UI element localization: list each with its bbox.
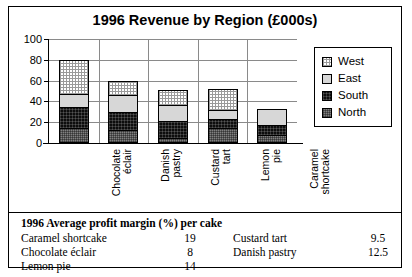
table-row: Caramel shortcake19Custard tart9.5 — [21, 231, 393, 245]
legend-label-west: West — [338, 56, 364, 68]
bar-segment-south[interactable] — [158, 121, 188, 139]
legend-label-east: East — [338, 73, 361, 85]
bar-segment-west[interactable] — [108, 81, 138, 97]
bar-segment-south[interactable] — [59, 107, 89, 130]
margin-value-right: 12.5 — [363, 245, 393, 259]
margin-name-right — [233, 259, 363, 273]
legend-item-south[interactable]: South — [315, 87, 391, 104]
east-swatch — [322, 74, 332, 84]
margin-gap — [219, 231, 233, 245]
chart-figure: 1996 Revenue by Region (£000s) 020406080… — [8, 6, 402, 268]
bar-segment-south[interactable] — [257, 125, 287, 135]
margin-value-left: 14 — [161, 259, 219, 273]
legend-item-west[interactable]: West — [315, 53, 391, 70]
gridline-x-1 — [99, 39, 100, 143]
y-tick-label-80: 80 — [30, 54, 42, 65]
y-axis-line — [48, 39, 49, 143]
margin-value-left: 19 — [161, 231, 219, 245]
margin-value-right — [363, 259, 393, 273]
gridline-x-2 — [148, 39, 149, 143]
bar-segment-east[interactable] — [108, 95, 138, 113]
margin-name-left: Chocolate éclair — [21, 245, 161, 259]
y-tick-mark-80 — [44, 60, 49, 61]
y-tick-mark-40 — [44, 101, 49, 102]
bar-segment-north[interactable] — [59, 128, 89, 143]
profit-margin-title: 1996 Average profit margin (%) per cake — [21, 217, 393, 229]
bar-segment-north[interactable] — [208, 128, 238, 143]
bar-segment-west[interactable] — [208, 89, 238, 111]
profit-margin-section: 1996 Average profit margin (%) per cake … — [21, 217, 393, 273]
bar-segment-east[interactable] — [257, 109, 287, 127]
margin-name-right: Danish pastry — [233, 245, 363, 259]
profit-margin-table: Caramel shortcake19Custard tart9.5Chocol… — [21, 231, 393, 273]
y-tick-label-20: 20 — [30, 117, 42, 128]
gridline-x-4 — [247, 39, 248, 143]
margin-gap — [219, 259, 233, 273]
table-row: Lemon pie14 — [21, 259, 393, 273]
legend-label-south: South — [338, 90, 368, 102]
south-swatch — [322, 91, 332, 101]
gridline-x-3 — [198, 39, 199, 143]
plot-area: 020406080100 — [49, 39, 297, 143]
margin-value-right: 9.5 — [363, 231, 393, 245]
y-tick-mark-0 — [44, 143, 49, 144]
bar-segment-south[interactable] — [108, 112, 138, 131]
bar-segment-east[interactable] — [59, 94, 89, 107]
y-tick-label-0: 0 — [36, 138, 42, 149]
bar-segment-east[interactable] — [208, 110, 238, 120]
y-tick-label-40: 40 — [30, 96, 42, 107]
legend-label-north: North — [338, 107, 366, 119]
y-tick-label-60: 60 — [30, 75, 42, 86]
y-tick-label-100: 100 — [24, 34, 42, 45]
bar-segment-north[interactable] — [257, 135, 287, 143]
section-divider — [9, 212, 401, 213]
north-swatch — [322, 108, 332, 118]
bar-segment-north[interactable] — [108, 130, 138, 143]
margin-name-right: Custard tart — [233, 231, 363, 245]
y-tick-mark-60 — [44, 81, 49, 82]
y-tick-mark-100 — [44, 39, 49, 40]
chart-legend: WestEastSouthNorth — [314, 47, 392, 127]
west-swatch — [322, 57, 332, 67]
margin-name-left: Caramel shortcake — [21, 231, 161, 245]
bar-segment-west[interactable] — [158, 90, 188, 106]
bar-segment-south[interactable] — [208, 119, 238, 129]
bar-segment-west[interactable] — [59, 60, 89, 95]
y-tick-mark-20 — [44, 122, 49, 123]
chart-title: 1996 Revenue by Region (£000s) — [9, 12, 401, 28]
gridline-y-100 — [49, 39, 297, 40]
bar-segment-east[interactable] — [158, 105, 188, 123]
x-axis-line — [43, 143, 303, 144]
legend-item-east[interactable]: East — [315, 70, 391, 87]
table-row: Chocolate éclair8Danish pastry12.5 — [21, 245, 393, 259]
legend-item-north[interactable]: North — [315, 104, 391, 121]
margin-value-left: 8 — [161, 245, 219, 259]
margin-name-left: Lemon pie — [21, 259, 161, 273]
margin-gap — [219, 245, 233, 259]
